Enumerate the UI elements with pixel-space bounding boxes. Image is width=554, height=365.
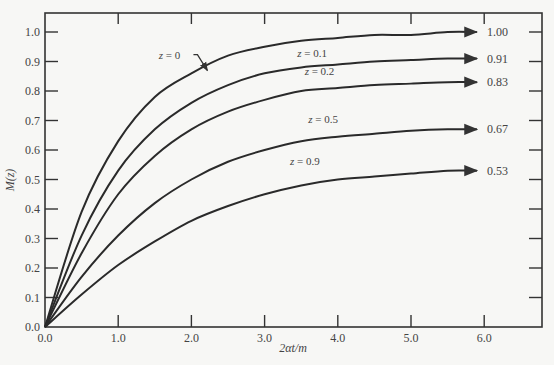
y-tick-label: 0.0 xyxy=(25,320,40,334)
curve-label: z = 0.1 xyxy=(296,47,327,59)
x-tick-label: 5.0 xyxy=(404,331,419,345)
end-value-label: 0.83 xyxy=(487,75,508,89)
y-tick-label: 0.1 xyxy=(25,291,40,305)
x-tick-label: 3.0 xyxy=(257,331,272,345)
y-tick-label: 0.8 xyxy=(25,84,40,98)
curves xyxy=(45,32,477,327)
x-tick-label: 6.0 xyxy=(477,331,492,345)
y-tick-label: 0.2 xyxy=(25,261,40,275)
curve-label: z = 0.2 xyxy=(304,65,335,77)
y-tick-label: 0.7 xyxy=(25,114,40,128)
curve-z05 xyxy=(45,129,477,327)
y-tick-label: 0.9 xyxy=(25,55,40,69)
curve-z01 xyxy=(45,58,477,327)
y-axis-label: M(z) xyxy=(3,169,17,193)
chart: 0.01.02.03.04.05.06.00.00.10.20.30.40.50… xyxy=(0,0,554,365)
end-value-label: 0.53 xyxy=(487,164,508,178)
x-tick-label: 2.0 xyxy=(184,331,199,345)
x-tick-label: 4.0 xyxy=(330,331,345,345)
curve-z09 xyxy=(45,170,477,327)
y-tick-label: 0.5 xyxy=(25,173,40,187)
y-tick-label: 1.0 xyxy=(25,25,40,39)
x-axis-label: 2αt/m xyxy=(279,341,307,355)
axis-ticks: 0.01.02.03.04.05.06.00.00.10.20.30.40.50… xyxy=(25,13,542,345)
curve-z02 xyxy=(45,82,477,327)
labels: 1.000.910.830.670.53z = 0z = 0.1z = 0.2z… xyxy=(158,25,508,178)
curve-label: z = 0.5 xyxy=(307,113,338,125)
end-value-label: 0.91 xyxy=(487,52,508,66)
y-tick-label: 0.6 xyxy=(25,143,40,157)
x-tick-label: 1.0 xyxy=(111,331,126,345)
curve-label: z = 0.9 xyxy=(289,155,320,167)
end-value-label: 1.00 xyxy=(487,25,508,39)
y-tick-label: 0.4 xyxy=(25,202,40,216)
curve-label: z = 0 xyxy=(158,49,181,61)
y-tick-label: 0.3 xyxy=(25,232,40,246)
curve-z0 xyxy=(45,32,477,327)
end-value-label: 0.67 xyxy=(487,122,508,136)
